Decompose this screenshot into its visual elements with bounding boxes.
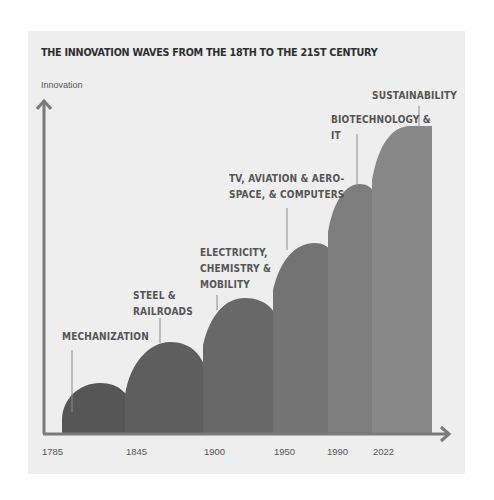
x-tick-1900: 1900 xyxy=(204,446,225,457)
wave-electricity xyxy=(203,298,280,433)
wave-steel-railroads xyxy=(125,342,208,433)
wave-label-mechanization: MECHANIZATION xyxy=(62,329,149,345)
x-tick-1990: 1990 xyxy=(327,446,348,457)
x-tick-1845: 1845 xyxy=(126,446,147,457)
wave-label-electricity: ELECTRICITY, CHEMISTRY & MOBILITY xyxy=(200,245,271,293)
wave-label-tv-aviation: TV, AVIATION & AERO- SPACE, & COMPUTERS xyxy=(229,171,345,203)
wave-label-biotech-it: BIOTECHNOLOGY & IT xyxy=(331,112,431,144)
wave-sustainability xyxy=(372,126,432,433)
wave-label-steel-railroads: STEEL & RAILROADS xyxy=(133,288,193,320)
x-tick-1785: 1785 xyxy=(42,446,63,457)
wave-biotech-it xyxy=(328,184,378,433)
x-tick-1950: 1950 xyxy=(274,446,295,457)
wave-label-sustainability: SUSTAINABILITY xyxy=(372,88,457,104)
wave-tv-aviation xyxy=(273,243,336,433)
x-tick-2022: 2022 xyxy=(373,446,394,457)
